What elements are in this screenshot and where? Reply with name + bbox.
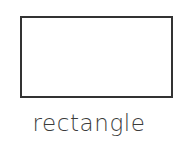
shape-card: rectangle bbox=[0, 0, 178, 149]
rectangle-outline-path bbox=[21, 17, 172, 97]
rectangle-outline-icon bbox=[20, 16, 173, 98]
rectangle-shape-figure bbox=[20, 16, 173, 98]
shape-caption-label: rectangle bbox=[0, 108, 178, 138]
